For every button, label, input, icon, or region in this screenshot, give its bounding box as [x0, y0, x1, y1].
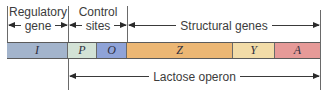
- structural-genes-span-arrow: Structural genes: [129, 19, 319, 32]
- arrow-left-icon: [9, 25, 21, 26]
- segment-i: I: [7, 43, 68, 58]
- arrow-right-icon: [114, 25, 126, 26]
- lactose-operon-label: Lactose operon: [149, 70, 240, 84]
- regulatory-gene-span-arrow: gene: [9, 19, 67, 32]
- lactose-operon-span-arrow: Lactose operon: [70, 70, 319, 83]
- control-sites-span-arrow: sites: [70, 19, 126, 32]
- segment-i-label: I: [35, 43, 39, 58]
- segment-y-label: Y: [250, 43, 257, 58]
- control-sites-label-line1: Control: [69, 6, 127, 19]
- arrow-right-icon: [272, 25, 319, 26]
- arrow-left-icon: [70, 25, 82, 26]
- segment-z: Z: [127, 43, 233, 58]
- segment-a-label: A: [294, 43, 301, 58]
- divider-line-right: [320, 10, 321, 90]
- control-sites-label-line2: sites: [82, 19, 115, 33]
- segment-a: A: [275, 43, 320, 58]
- regulatory-gene-label-line2: gene: [21, 19, 56, 33]
- arrow-left-icon: [129, 25, 176, 26]
- gene-bar: I P O Z Y A: [7, 42, 320, 59]
- regulatory-gene-label-line1: Regulatory: [8, 6, 68, 19]
- structural-genes-label: Structural genes: [176, 19, 271, 33]
- segment-p: P: [68, 43, 97, 58]
- segment-p-label: P: [78, 43, 85, 58]
- segment-o-label: O: [107, 43, 116, 58]
- segment-o: O: [97, 43, 127, 58]
- arrow-right-icon: [240, 76, 319, 77]
- segment-y: Y: [233, 43, 275, 58]
- segment-z-label: Z: [176, 43, 183, 58]
- arrow-right-icon: [55, 25, 67, 26]
- arrow-left-icon: [70, 76, 149, 77]
